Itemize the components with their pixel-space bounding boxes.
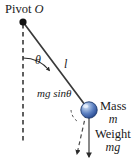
mass-label-word: Mass bbox=[100, 99, 126, 113]
weight-label: Weightmg bbox=[95, 128, 131, 154]
pivot-label-symbol: O bbox=[35, 2, 44, 16]
weight-label-word: Weight bbox=[95, 127, 131, 141]
bob-highlight bbox=[83, 104, 88, 108]
component-arc bbox=[71, 110, 79, 122]
length-label: l bbox=[64, 58, 67, 71]
pendulum-diagram: Pivot O θ l mg sinθ Massm Weightmg bbox=[0, 0, 133, 168]
pendulum-bob bbox=[81, 102, 97, 118]
pivot-dot bbox=[19, 18, 26, 25]
tangential-force-label: mg sinθ bbox=[37, 88, 71, 100]
tangential-force-arrow bbox=[77, 114, 86, 154]
pivot-label-word: Pivot bbox=[5, 2, 35, 16]
mass-label: Massm bbox=[100, 100, 126, 126]
mass-label-symbol: m bbox=[100, 113, 126, 126]
pivot-label: Pivot O bbox=[5, 3, 44, 16]
weight-label-symbol: mg bbox=[95, 141, 131, 154]
angle-label: θ bbox=[35, 54, 41, 67]
